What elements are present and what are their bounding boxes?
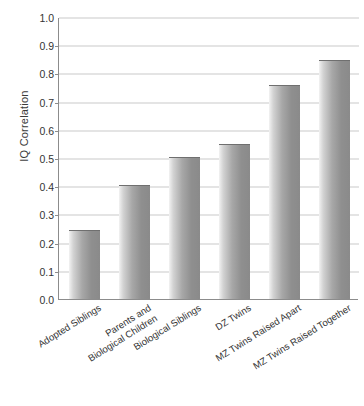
x-axis-category-labels: Adopted SiblingsParents and Biological C…: [58, 302, 358, 406]
y-axis-tick-mark: [55, 74, 59, 75]
y-axis-tick-mark: [55, 46, 59, 47]
y-axis-tick-mark: [55, 215, 59, 216]
y-axis-tick-mark: [55, 103, 59, 104]
bar: [319, 60, 350, 299]
y-axis-tick-label: 0.7: [39, 97, 54, 109]
bar: [169, 157, 200, 299]
y-axis-tick-label: 0.2: [39, 238, 54, 250]
y-axis-tick-label: 0.4: [39, 181, 54, 193]
y-axis-tick-label: 0.5: [39, 153, 54, 165]
y-axis-tick-label: 0.8: [39, 68, 54, 80]
bar-series: [59, 17, 359, 299]
y-axis-tick-label: 0.0: [39, 294, 54, 306]
y-axis-tick-mark: [55, 244, 59, 245]
bar: [219, 144, 250, 299]
y-axis-tick-mark: [55, 187, 59, 188]
y-axis-tick-label: 1.0: [39, 12, 54, 24]
y-axis-tick-mark: [55, 272, 59, 273]
y-axis-tick-mark: [55, 159, 59, 160]
bar: [269, 85, 300, 299]
bar: [69, 230, 100, 299]
y-axis-tick-label: 0.6: [39, 125, 54, 137]
y-axis-tick-label: 0.3: [39, 209, 54, 221]
y-axis-tick-labels: 1.00.90.80.70.60.50.40.30.20.10.0: [26, 18, 54, 300]
y-axis-tick-mark: [55, 131, 59, 132]
plot-area: [58, 18, 358, 300]
y-axis-tick-label: 0.9: [39, 40, 54, 52]
bar: [119, 185, 150, 299]
bar-chart: IQ Correlation 1.00.90.80.70.60.50.40.30…: [0, 0, 364, 406]
y-axis-tick-label: 0.1: [39, 266, 54, 278]
